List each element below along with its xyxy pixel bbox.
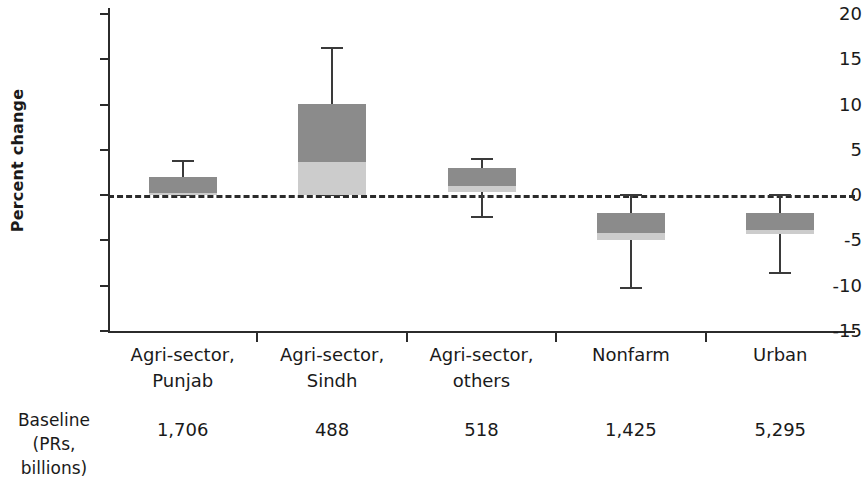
error-bar-cap: [172, 160, 194, 162]
y-axis-tick: [100, 285, 109, 287]
x-axis-label-line: Punjab: [108, 368, 257, 394]
x-axis-label-line: Agri-sector,: [407, 342, 556, 368]
bar-3: [448, 168, 516, 192]
y-axis-tick-label: 5: [816, 141, 862, 159]
y-axis-title-text: Percent change: [9, 88, 28, 232]
baseline-value-5: 5,295: [706, 418, 855, 442]
error-bar-cap: [321, 47, 343, 49]
x-axis-separator: [406, 333, 408, 342]
y-axis-tick: [100, 330, 109, 332]
y-axis-tick-label: 10: [816, 96, 862, 114]
x-axis-label-4: Nonfarm: [556, 342, 705, 368]
y-axis-tick-label: -15: [816, 322, 862, 340]
x-axis-label-2: Agri-sector,Sindh: [257, 342, 406, 394]
x-axis-label-3: Agri-sector,others: [407, 342, 556, 394]
x-axis-label-line: Agri-sector,: [257, 342, 406, 368]
error-bar-cap: [769, 272, 791, 274]
bar-2: [298, 104, 366, 195]
baseline-row-label: Baseline (PRs, billions): [0, 408, 108, 480]
y-axis-title: Percent change: [6, 50, 30, 270]
x-axis-separator: [555, 333, 557, 342]
x-axis-label-line: others: [407, 368, 556, 394]
bar-segment-light: [448, 186, 516, 191]
bar-segment-light: [298, 162, 366, 196]
y-axis-tick: [100, 239, 109, 241]
x-axis-label-1: Agri-sector,Punjab: [108, 342, 257, 394]
bar-segment-dark: [746, 213, 814, 229]
error-bar-line: [779, 195, 781, 273]
bar-segment-light: [746, 230, 814, 235]
baseline-value-1: 1,706: [108, 418, 257, 442]
bar-segment-dark: [149, 177, 217, 193]
bar-segment-light: [149, 193, 217, 195]
baseline-value-2: 488: [257, 418, 406, 442]
error-bar-cap: [471, 216, 493, 218]
bar-segment-dark: [448, 168, 516, 186]
x-axis-label-line: Sindh: [257, 368, 406, 394]
x-axis-label-line: Urban: [706, 342, 855, 368]
y-axis-tick: [100, 13, 109, 15]
bar-5: [746, 213, 814, 234]
bar-4: [597, 213, 665, 240]
error-bar-cap: [471, 158, 493, 160]
error-bar-line: [630, 195, 632, 287]
x-axis-separator: [705, 333, 707, 342]
baseline-value-4: 1,425: [556, 418, 705, 442]
x-axis-separator: [256, 333, 258, 342]
baseline-label-line2: (PRs, billions): [0, 432, 108, 480]
bar-segment-light: [597, 233, 665, 240]
bar-segment-dark: [298, 104, 366, 162]
bar-1: [149, 177, 217, 195]
x-axis-line: [108, 331, 855, 333]
y-axis-tick: [100, 104, 109, 106]
error-bar-cap: [769, 194, 791, 196]
y-axis-tick-label: 20: [816, 5, 862, 23]
bar-segment-dark: [597, 213, 665, 233]
y-axis-tick: [100, 58, 109, 60]
y-axis-tick-label: -10: [816, 277, 862, 295]
y-axis-tick-label: -5: [816, 231, 862, 249]
x-axis-label-line: Nonfarm: [556, 342, 705, 368]
x-axis-label-line: Agri-sector,: [108, 342, 257, 368]
y-axis-tick-label: 15: [816, 50, 862, 68]
y-axis-tick: [100, 149, 109, 151]
error-bar-cap: [620, 287, 642, 289]
baseline-value-3: 518: [407, 418, 556, 442]
x-axis-label-5: Urban: [706, 342, 855, 368]
error-bar-cap: [620, 194, 642, 196]
baseline-label-line1: Baseline: [0, 408, 108, 432]
